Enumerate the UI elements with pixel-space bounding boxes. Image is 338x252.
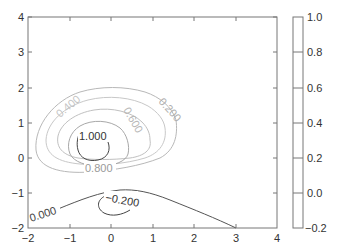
x-tick-label: 4 (274, 232, 280, 244)
contour-label-0.8: 0.800 (85, 162, 113, 174)
colorbar-tick-label: 0.4 (307, 117, 322, 129)
colorbar-tick-label: −0.2 (305, 222, 327, 234)
colorbar-tick-label: 0.2 (307, 152, 322, 164)
colorbar: 1.0 0.8 0.6 0.4 0.2 0.0 −0.2 (293, 11, 327, 234)
contour-label-1.0: 1.000 (79, 130, 107, 142)
colorbar-tick-label: 0.6 (307, 82, 322, 94)
y-tick-label: 2 (18, 82, 24, 94)
x-tick-label: 2 (191, 232, 197, 244)
y-tick-label: 1 (18, 117, 24, 129)
x-tick-label: 3 (233, 232, 239, 244)
contour-label-0.6: 0.600 (121, 105, 145, 135)
plot-frame (28, 17, 277, 228)
x-tick-labels: −2 −1 0 1 2 3 4 (22, 232, 280, 244)
colorbar-tick-label: 0.8 (307, 46, 322, 58)
x-tick-label: −1 (64, 232, 77, 244)
contour-0.0 (58, 190, 236, 228)
x-tick-label: 1 (150, 232, 156, 244)
y-tick-labels: 4 3 2 1 0 −1 −2 (11, 11, 24, 234)
x-tick-label: −2 (22, 232, 35, 244)
x-tick-label: 0 (108, 232, 114, 244)
y-tick-label: 3 (18, 46, 24, 58)
x-axis (70, 17, 236, 228)
contour-label-0.2: 0.200 (157, 95, 184, 123)
contour-chart: 1.000 0.800 0.600 0.400 0.200 0.000 −0.2… (0, 0, 338, 252)
colorbar-tick-label: 1.0 (307, 11, 322, 23)
colorbar-tick-label: 0.0 (307, 187, 322, 199)
y-tick-label: 4 (18, 11, 24, 23)
y-tick-label: 0 (18, 152, 24, 164)
y-tick-label: −1 (11, 187, 24, 199)
